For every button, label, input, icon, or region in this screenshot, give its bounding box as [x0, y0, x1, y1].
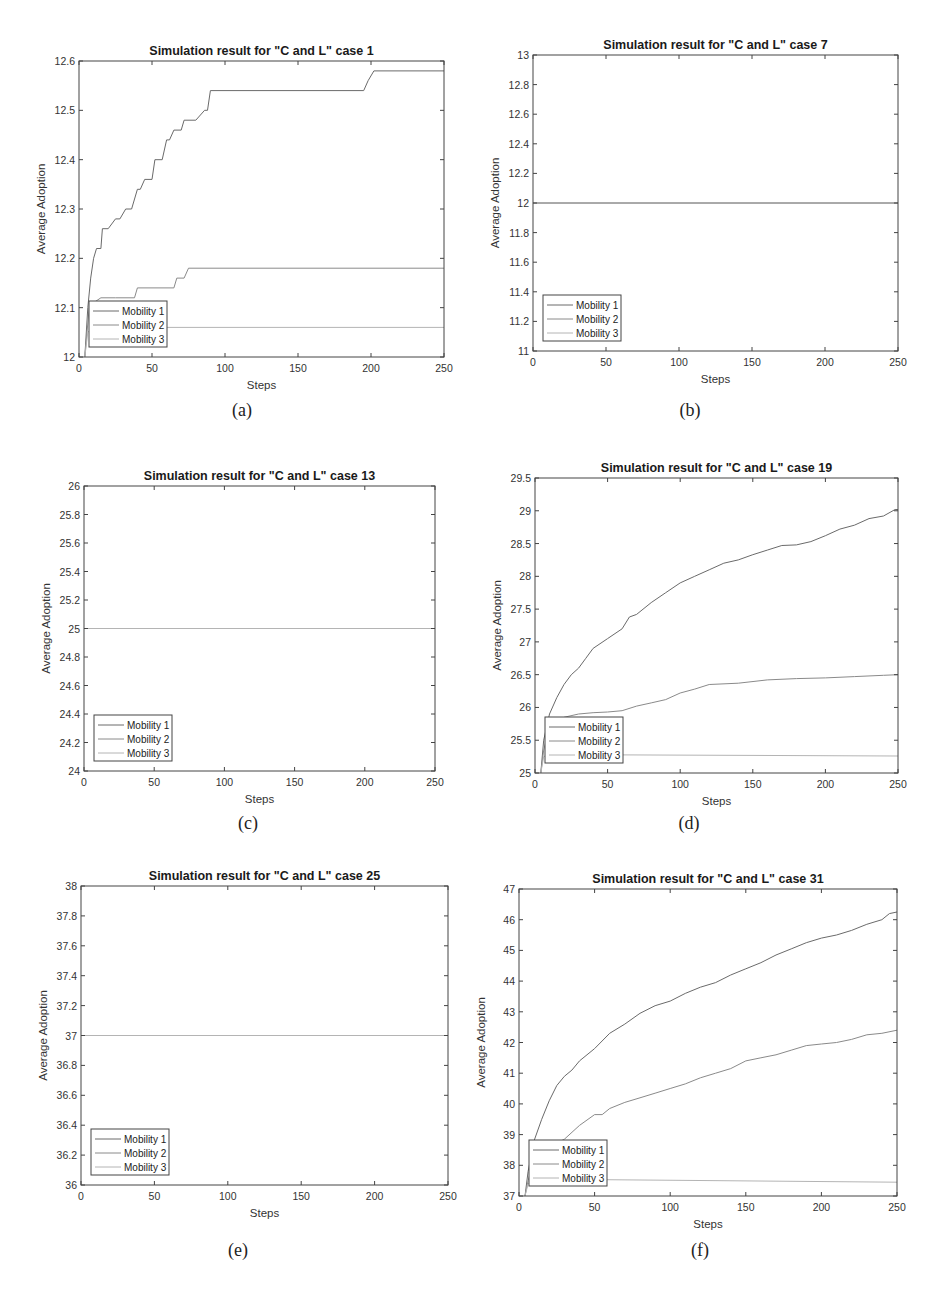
y-tick-label: 37 — [65, 1030, 77, 1042]
subcaption-e: (e) — [218, 1240, 258, 1261]
y-tick-label: 42 — [503, 1037, 515, 1049]
y-tick-label: 24.6 — [60, 680, 81, 692]
y-tick-label: 12.6 — [509, 108, 530, 120]
chart-panel-b: Simulation result for "C and L" case 705… — [0, 0, 946, 1306]
y-tick-label: 24.2 — [60, 737, 81, 749]
legend-entry: Mobility 3 — [578, 750, 621, 761]
y-tick-label: 12 — [517, 197, 529, 209]
y-tick-label: 36 — [65, 1179, 77, 1191]
chart-title: Simulation result for "C and L" case 1 — [149, 44, 373, 58]
x-tick-label: 200 — [816, 356, 834, 368]
y-tick-label: 27 — [519, 636, 531, 648]
x-tick-label: 200 — [362, 362, 380, 374]
x-tick-label: 150 — [743, 356, 761, 368]
legend: Mobility 1Mobility 2Mobility 3 — [91, 1129, 169, 1175]
chart-panel-c: Simulation result for "C and L" case 130… — [0, 0, 946, 1306]
plot-frame — [533, 55, 898, 351]
y-tick-label: 25.6 — [60, 537, 81, 549]
y-tick-label: 12.6 — [55, 55, 76, 67]
x-tick-label: 0 — [532, 778, 538, 790]
y-axis-label: Average Adoption — [489, 158, 501, 249]
legend-entry: Mobility 1 — [578, 722, 621, 733]
x-tick-label: 150 — [289, 362, 307, 374]
plot-frame — [79, 61, 444, 357]
y-axis-label: Average Adoption — [37, 990, 49, 1081]
plot-frame — [519, 889, 897, 1196]
legend: Mobility 1Mobility 2Mobility 3 — [529, 1140, 607, 1186]
x-tick-label: 50 — [600, 356, 612, 368]
subcaption-f: (f) — [680, 1240, 720, 1261]
series-line-mobility-3 — [525, 1179, 897, 1196]
legend-entry: Mobility 1 — [127, 720, 170, 731]
y-tick-label: 12.3 — [55, 203, 76, 215]
y-tick-label: 25.8 — [60, 509, 81, 521]
x-axis-label: Steps — [245, 793, 275, 805]
chart-title: Simulation result for "C and L" case 7 — [603, 38, 827, 52]
y-tick-label: 37.2 — [57, 1000, 78, 1012]
plot-frame — [81, 886, 448, 1185]
x-axis-label: Steps — [247, 379, 277, 391]
y-tick-label: 26 — [519, 701, 531, 713]
series-line-mobility-1 — [541, 510, 898, 774]
y-tick-label: 12.2 — [55, 252, 76, 264]
x-tick-label: 0 — [78, 1190, 84, 1202]
chart-svg: Simulation result for "C and L" case 130… — [0, 0, 946, 1306]
chart-title: Simulation result for "C and L" case 31 — [592, 872, 823, 886]
chart-title: Simulation result for "C and L" case 19 — [601, 461, 832, 475]
y-tick-label: 37.8 — [57, 910, 78, 922]
x-tick-label: 50 — [589, 1201, 601, 1213]
chart-title: Simulation result for "C and L" case 25 — [149, 869, 380, 883]
y-tick-label: 43 — [503, 1006, 515, 1018]
x-tick-label: 150 — [286, 776, 304, 788]
legend-entry: Mobility 2 — [122, 320, 165, 331]
x-tick-label: 0 — [530, 356, 536, 368]
y-tick-label: 26.5 — [511, 669, 532, 681]
y-tick-label: 28.5 — [511, 538, 532, 550]
legend-entry: Mobility 3 — [122, 334, 165, 345]
chart-svg: Simulation result for "C and L" case 190… — [0, 0, 946, 1306]
y-tick-label: 13 — [517, 49, 529, 61]
y-tick-label: 11.8 — [509, 227, 529, 239]
legend-entry: Mobility 2 — [576, 314, 619, 325]
x-tick-label: 200 — [366, 1190, 384, 1202]
legend-entry: Mobility 1 — [576, 300, 619, 311]
x-tick-label: 0 — [76, 362, 82, 374]
legend-entry: Mobility 3 — [562, 1173, 605, 1184]
chart-svg: Simulation result for "C and L" case 705… — [0, 0, 946, 1306]
y-tick-label: 39 — [503, 1129, 515, 1141]
x-tick-label: 0 — [516, 1201, 522, 1213]
x-tick-label: 0 — [81, 776, 87, 788]
x-tick-label: 100 — [216, 362, 234, 374]
y-tick-label: 37.4 — [57, 970, 78, 982]
x-tick-label: 200 — [813, 1201, 831, 1213]
subcaption-b: (b) — [670, 400, 710, 421]
x-axis-label: Steps — [702, 795, 732, 807]
y-tick-label: 38 — [503, 1159, 515, 1171]
plot-frame — [535, 478, 898, 773]
y-tick-label: 29.5 — [511, 472, 532, 484]
y-tick-label: 36.6 — [57, 1089, 78, 1101]
y-tick-label: 26 — [68, 480, 80, 492]
y-axis-label: Average Adoption — [475, 997, 487, 1088]
y-tick-label: 12.2 — [509, 167, 530, 179]
legend: Mobility 1Mobility 2Mobility 3 — [543, 295, 621, 341]
y-tick-label: 36.8 — [57, 1059, 78, 1071]
subcaption-d: (d) — [669, 813, 709, 834]
plot-frame — [84, 486, 435, 771]
y-tick-label: 38 — [65, 880, 77, 892]
x-tick-label: 100 — [671, 778, 689, 790]
y-tick-label: 11 — [518, 345, 529, 357]
y-tick-label: 25.4 — [60, 566, 81, 578]
legend-entry: Mobility 3 — [124, 1162, 167, 1173]
y-tick-label: 40 — [503, 1098, 515, 1110]
y-tick-label: 11.2 — [509, 315, 529, 327]
chart-panel-e: Simulation result for "C and L" case 250… — [0, 0, 946, 1306]
x-tick-label: 150 — [292, 1190, 310, 1202]
y-tick-label: 41 — [503, 1067, 515, 1079]
series-line-mobility-2 — [85, 268, 444, 357]
y-tick-label: 25.2 — [60, 594, 81, 606]
y-axis-label: Average Adoption — [40, 583, 52, 674]
series-line-mobility-1 — [85, 71, 444, 357]
y-tick-label: 11.4 — [509, 286, 529, 298]
x-tick-label: 250 — [889, 356, 907, 368]
